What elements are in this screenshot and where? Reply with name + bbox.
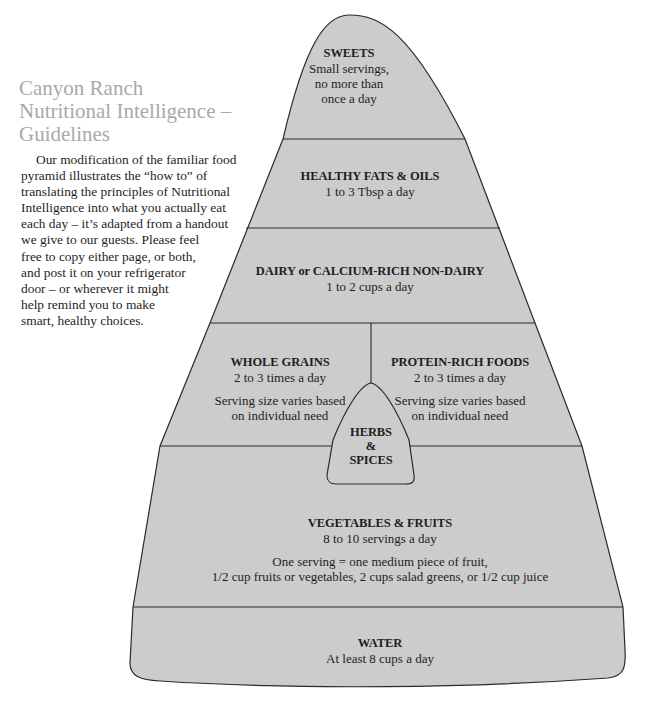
pyramid-outline — [130, 15, 625, 687]
herbs-line: HERBS — [341, 425, 401, 439]
sweets-line: Small servings, — [290, 61, 408, 76]
vegetables-note: 1/2 cup fruits or vegetables, 2 cups sal… — [150, 569, 610, 584]
protein-amount: 2 to 3 times a day — [380, 370, 540, 385]
vegetables-heading: VEGETABLES & FRUITS — [150, 516, 610, 531]
herbs-tier: HERBS & SPICES — [341, 425, 401, 467]
herbs-line: SPICES — [341, 453, 401, 467]
grains-note: on individual need — [200, 408, 360, 423]
protein-note: on individual need — [380, 408, 540, 423]
sweets-line: no more than — [290, 76, 408, 91]
fats-tier: HEALTHY FATS & OILS 1 to 3 Tbsp a day — [270, 169, 470, 199]
vegetables-tier: VEGETABLES & FRUITS 8 to 10 servings a d… — [150, 516, 610, 584]
water-heading: WATER — [280, 636, 480, 651]
sweets-tier: SWEETS Small servings, no more than once… — [290, 46, 408, 106]
grains-amount: 2 to 3 times a day — [200, 370, 360, 385]
herbs-line: & — [341, 439, 401, 453]
fats-amount: 1 to 3 Tbsp a day — [270, 184, 470, 199]
water-tier: WATER At least 8 cups a day — [280, 636, 480, 666]
grains-heading: WHOLE GRAINS — [200, 355, 360, 370]
protein-heading: PROTEIN-RICH FOODS — [380, 355, 540, 370]
vegetables-note: One serving = one medium piece of fruit, — [150, 554, 610, 569]
fats-heading: HEALTHY FATS & OILS — [270, 169, 470, 184]
water-amount: At least 8 cups a day — [280, 651, 480, 666]
sweets-line: once a day — [290, 91, 408, 106]
dairy-heading: DAIRY or CALCIUM-RICH NON-DAIRY — [240, 264, 500, 279]
grains-note: Serving size varies based — [200, 393, 360, 408]
dairy-amount: 1 to 2 cups a day — [240, 279, 500, 294]
protein-tier: PROTEIN-RICH FOODS 2 to 3 times a day Se… — [380, 355, 540, 423]
sweets-heading: SWEETS — [290, 46, 408, 61]
dairy-tier: DAIRY or CALCIUM-RICH NON-DAIRY 1 to 2 c… — [240, 264, 500, 294]
vegetables-amount: 8 to 10 servings a day — [150, 531, 610, 546]
grains-tier: WHOLE GRAINS 2 to 3 times a day Serving … — [200, 355, 360, 423]
protein-note: Serving size varies based — [380, 393, 540, 408]
